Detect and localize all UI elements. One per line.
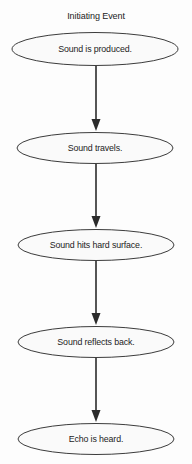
node-label-echo-is-heard: Echo is heard. xyxy=(23,433,168,444)
flowchart-canvas xyxy=(0,0,192,464)
node-label-sound-reflects-back: Sound reflects back. xyxy=(23,336,168,347)
connector-arrow-1 xyxy=(92,66,101,131)
connector-arrow-3 xyxy=(92,261,101,325)
connector-arrow-4 xyxy=(92,358,101,422)
connector-arrow-2 xyxy=(92,164,101,228)
node-label-sound-hits-hard-surface: Sound hits hard surface. xyxy=(23,239,168,250)
node-label-sound-is-produced: Sound is produced. xyxy=(18,43,172,54)
flowchart-diagram: Initiating Event xyxy=(0,0,192,464)
node-label-sound-travels: Sound travels. xyxy=(22,142,167,153)
